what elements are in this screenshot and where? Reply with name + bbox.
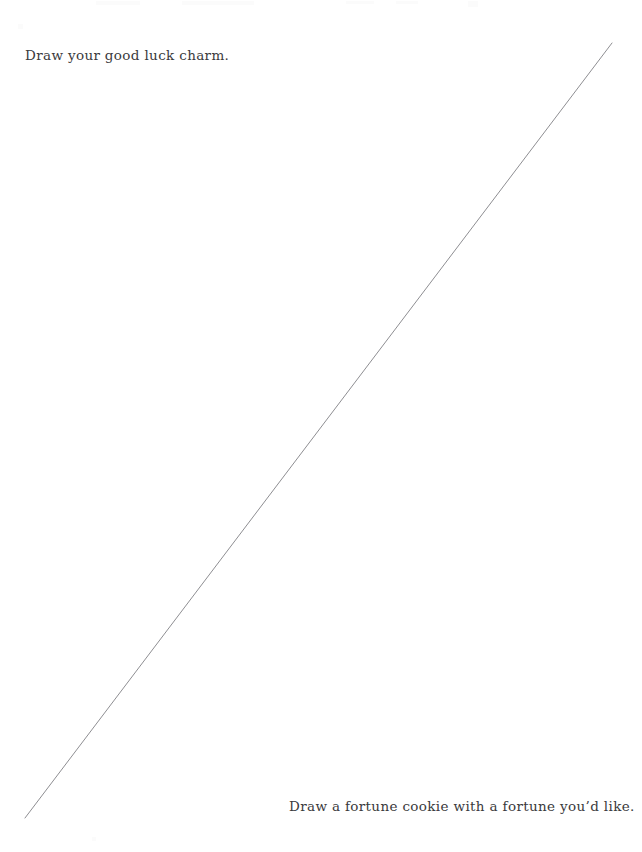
- activity-page: Draw your good luck charm. Draw a fortun…: [0, 0, 642, 852]
- drawing-canvas[interactable]: [0, 0, 642, 852]
- drawing-svg: [0, 0, 642, 852]
- prompt-text-bottom: Draw a fortune cookie with a fortune you…: [289, 798, 635, 814]
- diagonal-pencil-line: [25, 43, 612, 818]
